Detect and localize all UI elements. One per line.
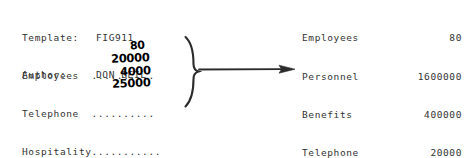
figure-canvas: Template:FIG911 Author:DON BEIL Employee…	[0, 0, 468, 158]
arrowhead-icon	[279, 65, 295, 73]
template-row: Template:FIG911	[22, 32, 147, 44]
report-header-row: Employees 80	[302, 32, 462, 44]
list-item: Telephone ..........	[22, 108, 161, 121]
report-row-value: 1600000	[418, 71, 462, 84]
report-row-label: Personnel	[302, 71, 359, 84]
report-header-value: 80	[449, 32, 462, 44]
input-item-label: Telephone	[22, 108, 79, 119]
list-item: Hospitality...........	[22, 146, 161, 158]
dot-leader: ..........	[79, 108, 155, 119]
dot-leader: ...........	[92, 146, 162, 157]
right-curly-brace-icon	[186, 37, 199, 107]
report-row-label: Benefits	[302, 109, 353, 122]
handwritten-value-equipment: 25000	[112, 75, 151, 90]
report-header-label: Employees	[302, 32, 359, 44]
report-row-value: 400000	[424, 109, 462, 122]
template-label: Template:	[22, 32, 96, 44]
template-value: FIG911	[96, 32, 134, 43]
input-item-label: Employees	[22, 70, 79, 81]
flow-connector	[182, 34, 302, 110]
table-row: Personnel 1600000	[302, 71, 462, 84]
input-item-label: Hospitality	[22, 146, 92, 157]
report-total: TOTAL: 2083000	[302, 134, 462, 158]
table-row: Benefits 400000	[302, 109, 462, 122]
